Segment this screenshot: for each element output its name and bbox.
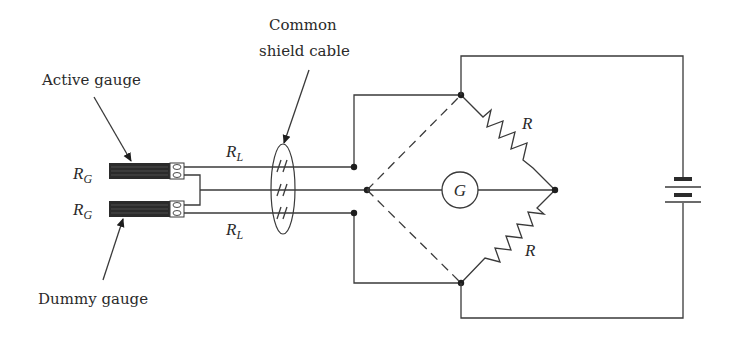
excitation-loop [461, 56, 683, 318]
node-top-lead [351, 164, 357, 170]
rl-top-label: RL [225, 142, 243, 164]
gauge-lead-wires [184, 167, 367, 213]
galvanometer: G [442, 172, 478, 208]
bridge-resistor-top [461, 95, 555, 190]
dashed-arm-top [367, 95, 461, 190]
cable-label-line2: shield cable [259, 42, 350, 60]
active-gauge-label: Active gauge [41, 71, 141, 89]
dummy-gauge-label: Dummy gauge [38, 290, 148, 308]
active-gauge-arrow [94, 97, 131, 161]
dashed-arm-bottom [367, 190, 461, 283]
dummy-gauge-arrow [103, 219, 123, 280]
cable-label-line1: Common [269, 16, 337, 34]
active-gauge [109, 163, 184, 179]
wheatstone-bridge-diagram: Active gauge Dummy gauge Common shield c… [0, 0, 737, 338]
galvanometer-label: G [454, 181, 466, 200]
r-top-label: R [521, 114, 533, 133]
node-bottom-lead [351, 210, 357, 216]
r-bottom-label: R [524, 241, 536, 260]
battery-icon [665, 177, 701, 202]
rg-top-label: RG [72, 164, 92, 186]
dummy-gauge [109, 201, 184, 217]
node-bridge-right [552, 187, 558, 193]
bridge-resistor-bottom [461, 190, 555, 283]
cable-arrow [284, 70, 309, 143]
shield-cable [271, 144, 295, 234]
rl-bottom-label: RL [225, 220, 243, 242]
rg-bottom-label: RG [72, 200, 92, 222]
